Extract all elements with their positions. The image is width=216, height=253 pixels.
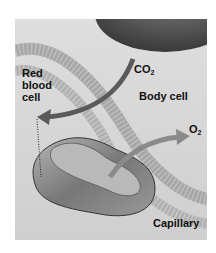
label-body-cell: Body cell xyxy=(139,90,188,102)
label-capillary: Capillary xyxy=(153,217,199,229)
label-red-blood-cell: Red blood cell xyxy=(22,67,52,103)
diagram-illustration xyxy=(15,19,207,240)
label-o2: O2 xyxy=(189,123,201,135)
label-co2: CO2 xyxy=(134,63,154,75)
diagram-panel: Red blood cell CO2 Body cell O2 Capillar… xyxy=(15,19,207,240)
